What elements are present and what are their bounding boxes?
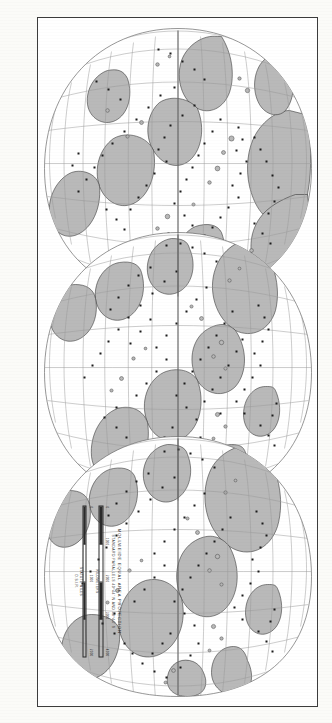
- map-title: MOLLWEIDE EQUAL AREA PROJECTION: [116, 476, 121, 686]
- map-rotated-canvas: MOLLWEIDE EQUAL AREA PROJECTION STANDARD…: [38, 18, 317, 706]
- scale-numbers-km: 0 1000 2000 3000 4000: [103, 506, 107, 656]
- scale-tick-km-0: 0: [103, 506, 107, 508]
- scale-bar-graphic-miles: [82, 505, 87, 657]
- scale-tick-km-1: 1000: [103, 537, 107, 545]
- scale-bar-graphic-km: [98, 505, 103, 657]
- map-plate: MOLLWEIDE EQUAL AREA PROJECTION STANDARD…: [37, 17, 318, 707]
- map-subtitle: STANDARD PARALLELS 40°44' N AND 40°44' S: [110, 476, 114, 686]
- scale-bar-miles: 0 1000 2000 STATUTE MILES D.S.I.R.: [72, 476, 91, 686]
- scale-tick-mi-0: 0: [87, 506, 91, 508]
- map-caption-block: MOLLWEIDE EQUAL AREA PROJECTION STANDARD…: [72, 476, 121, 686]
- scale-tick-mi-1: 1000: [87, 574, 91, 582]
- scale-tick-km-2: 2000: [103, 574, 107, 582]
- scale-unit-km: KILOMETERS: [93, 476, 97, 686]
- scale-bar-kilometers: 0 1000 2000 3000 4000 KILOMETERS: [93, 476, 107, 686]
- scale-unit-miles: STATUTE MILES: [77, 476, 81, 686]
- scan-page: MOLLWEIDE EQUAL AREA PROJECTION STANDARD…: [0, 0, 332, 723]
- legend-note: D.S.I.R.: [72, 476, 76, 686]
- scale-tick-km-4: 4000: [103, 648, 107, 656]
- scale-tick-mi-2: 2000: [87, 648, 91, 656]
- scale-numbers-miles: 0 1000 2000: [87, 506, 91, 656]
- scale-tick-km-3: 3000: [103, 611, 107, 619]
